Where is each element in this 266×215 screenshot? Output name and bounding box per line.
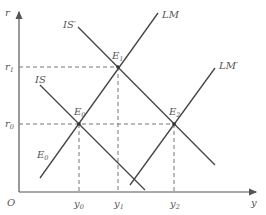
- y-axis-label: y: [250, 197, 257, 208]
- e1-label: E1: [111, 50, 123, 63]
- lm-prime-label: LM′: [218, 60, 239, 71]
- lm-label: LM: [161, 9, 180, 20]
- is-prime-label: IS′: [62, 19, 77, 30]
- lm-curve: [40, 13, 158, 178]
- y2-label: y2: [169, 198, 180, 211]
- lm-prime-curve: [130, 68, 215, 185]
- is-curve: [40, 85, 145, 190]
- e0-lower-label: E0: [36, 149, 48, 162]
- r1-label: r1: [5, 61, 14, 74]
- e0-point: [77, 122, 81, 126]
- y1-label: y1: [113, 198, 124, 211]
- e0-label: E0: [73, 106, 85, 119]
- r0-label: r0: [5, 118, 14, 131]
- e1-point: [116, 65, 120, 69]
- origin-label: O: [7, 197, 15, 208]
- e2-label: E2: [168, 106, 180, 119]
- is-lm-diagram: r y O r1 r0 y0 y1 y2 LM LM′ IS IS′ E1 E0…: [0, 0, 266, 215]
- y0-label: y0: [73, 198, 84, 211]
- e2-point: [172, 122, 176, 126]
- r-axis-label: r: [5, 7, 11, 18]
- is-label: IS: [34, 74, 46, 85]
